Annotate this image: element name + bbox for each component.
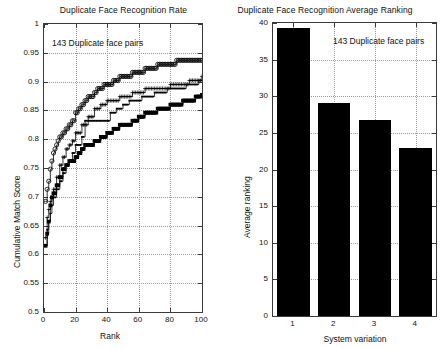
cmc-x-tick <box>202 308 203 312</box>
cmc-y-tick-label: 0.8 <box>2 134 39 143</box>
cmc-series-markers-circle <box>43 58 203 203</box>
ranking-y-tick-label: 5 <box>244 274 268 283</box>
ranking-bar <box>277 28 310 316</box>
ranking-bar <box>359 120 392 316</box>
ranking-y-tick-label: 40 <box>244 18 268 27</box>
cmc-y-tick-label: 0.65 <box>2 220 39 229</box>
cmc-y-tick <box>44 312 48 313</box>
ranking-y-tick <box>432 316 436 317</box>
ranking-y-tick <box>432 23 436 24</box>
ranking-panel: Duplicate Face Recognition Average Ranki… <box>225 0 446 349</box>
ranking-x-tick <box>334 23 335 27</box>
ranking-bar <box>399 148 432 317</box>
ranking-y-tick <box>432 133 436 134</box>
cmc-y-tick-label: 0.7 <box>2 191 39 200</box>
ranking-x-axis-label: System variation <box>324 334 387 344</box>
cmc-series-markers-plus <box>44 74 203 239</box>
ranking-y-tick <box>273 23 277 24</box>
ranking-y-tick-label: 0 <box>244 311 268 320</box>
ranking-plot-title: Duplicate Face Recognition Average Ranki… <box>215 5 435 15</box>
cmc-x-tick-label: 60 <box>133 315 142 324</box>
ranking-y-tick <box>273 316 277 317</box>
cmc-series-line-square <box>44 95 202 246</box>
ranking-x-tick-label: 4 <box>412 319 416 328</box>
cmc-y-tick-label: 0.5 <box>2 307 39 316</box>
ranking-x-tick <box>375 23 376 27</box>
cmc-y-tick-label: 0.95 <box>2 47 39 56</box>
cmc-curves <box>44 24 202 312</box>
ranking-y-tick <box>432 279 436 280</box>
ranking-y-tick <box>432 170 436 171</box>
cmc-x-axis-label: Rank <box>100 331 120 341</box>
cmc-y-tick-label: 1 <box>2 19 39 28</box>
ranking-y-tick-label: 35 <box>244 54 268 63</box>
cmc-x-tick-label: 80 <box>165 315 174 324</box>
cmc-y-tick-label: 0.6 <box>2 249 39 258</box>
ranking-x-tick-label: 1 <box>290 319 294 328</box>
cmc-plot-title: Duplicate Face Recognition Rate <box>43 5 204 15</box>
cmc-x-tick-label: 20 <box>70 315 79 324</box>
ranking-y-tick-label: 20 <box>244 164 268 173</box>
ranking-y-tick <box>432 243 436 244</box>
cmc-x-tick <box>202 24 203 28</box>
ranking-y-tick-label: 30 <box>244 91 268 100</box>
ranking-y-tick-label: 25 <box>244 127 268 136</box>
ranking-x-tick-label: 3 <box>372 319 376 328</box>
cmc-series-markers-square <box>44 93 203 248</box>
ranking-x-tick <box>416 23 417 27</box>
cmc-y-tick-label: 0.9 <box>2 76 39 85</box>
cmc-panel: Duplicate Face Recognition Rate Cumulati… <box>0 0 225 349</box>
cmc-x-tick-label: 100 <box>194 315 207 324</box>
ranking-y-tick <box>432 96 436 97</box>
ranking-y-tick <box>432 60 436 61</box>
cmc-y-tick-label: 0.85 <box>2 105 39 114</box>
ranking-annotation: 143 Duplicate face pairs <box>333 36 424 46</box>
cmc-y-tick <box>198 312 202 313</box>
figure-canvas: Duplicate Face Recognition Rate Cumulati… <box>0 0 446 349</box>
ranking-axes <box>272 22 437 317</box>
ranking-x-tick <box>293 23 294 27</box>
ranking-x-tick-label: 2 <box>331 319 335 328</box>
cmc-x-tick-label: 0 <box>41 315 45 324</box>
ranking-y-tick-label: 15 <box>244 201 268 210</box>
ranking-y-tick-label: 10 <box>244 237 268 246</box>
cmc-series-line-plus <box>44 76 202 237</box>
cmc-y-tick-label: 0.55 <box>2 278 39 287</box>
ranking-y-tick <box>432 206 436 207</box>
cmc-axes <box>43 23 203 313</box>
cmc-x-tick-label: 40 <box>102 315 111 324</box>
cmc-y-tick-label: 0.75 <box>2 163 39 172</box>
ranking-bar <box>318 103 351 316</box>
cmc-annotation: 143 Duplicate face pairs <box>52 38 143 48</box>
